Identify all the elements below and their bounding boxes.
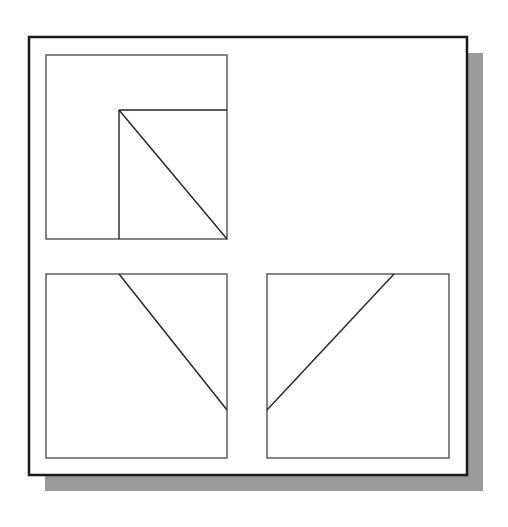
diagram-stage: [0, 0, 508, 527]
outer-frame: [29, 37, 467, 475]
diagram-canvas: [0, 0, 508, 527]
